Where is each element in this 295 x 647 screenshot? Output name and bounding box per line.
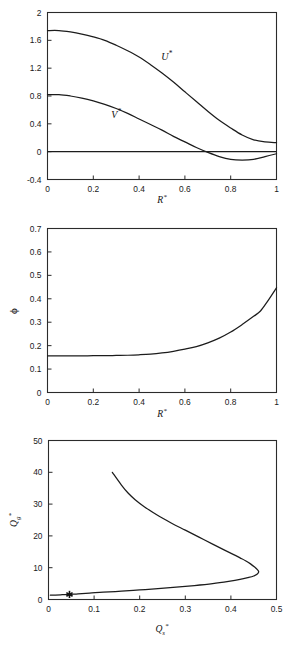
curve-label-Vstar: V* <box>111 108 121 120</box>
curve-U* <box>48 30 277 142</box>
plot-frame-2 <box>48 229 277 393</box>
curve-labels-1: U*V* <box>111 50 172 119</box>
velocity-profiles-svg: 00.20.40.60.81-0.400.40.81.21.62 R* U*V* <box>0 0 295 215</box>
curve-phi <box>48 288 277 356</box>
x-tick-label: 0.4 <box>133 397 145 407</box>
y-tick-label: -0.4 <box>27 175 42 185</box>
y-tick-label: 0 <box>38 595 43 605</box>
y-tick-label: 10 <box>33 563 43 573</box>
y-tick-label: 40 <box>33 467 43 477</box>
data-curves-3 <box>50 472 258 595</box>
y-tick-label: 0.7 <box>30 224 42 234</box>
chart-voidage-profile: 00.20.40.60.8100.10.20.30.40.50.60.7 ϕ R… <box>0 215 295 427</box>
y-tick-label: 0.4 <box>30 119 42 129</box>
x-tick-label: 0.4 <box>133 184 145 194</box>
y-tick-label: 0.3 <box>30 317 42 327</box>
y-tick-label: 0.8 <box>30 91 42 101</box>
curve-operating-curve <box>50 472 258 595</box>
y-axis-title-2: ϕ <box>7 308 19 314</box>
y-tick-label: 1.6 <box>30 35 42 45</box>
axis-ticks-1 <box>48 13 277 180</box>
x-tick-label: 1 <box>274 184 279 194</box>
y-tick-label: 0.6 <box>30 247 42 257</box>
x-tick-label: 0.6 <box>179 397 191 407</box>
axis-tick-labels-1: 00.20.40.60.81-0.400.40.81.21.62 <box>27 8 279 194</box>
x-tick-label: 0.8 <box>225 397 237 407</box>
y-axis-title-3: Qg* <box>7 513 21 527</box>
y-tick-label: 30 <box>33 499 43 509</box>
y-tick-label: 50 <box>33 436 43 446</box>
y-tick-label: 0 <box>37 147 42 157</box>
x-tick-label: 0 <box>45 397 50 407</box>
axis-ticks-2 <box>48 229 277 393</box>
axis-tick-labels-3: 00.10.20.30.40.501020304050 <box>33 436 282 614</box>
chart-gas-solids-flux: 00.10.20.30.40.501020304050 Qg* Qs* <box>0 427 295 647</box>
x-tick-label: 0.2 <box>87 184 99 194</box>
y-tick-label: 0 <box>37 388 42 398</box>
x-tick-label: 0.8 <box>225 184 237 194</box>
curve-label-Ustar: U* <box>161 50 172 62</box>
x-tick-label: 0.1 <box>88 604 100 614</box>
plot-frame-3 <box>49 441 277 600</box>
y-tick-label: 2 <box>37 8 42 18</box>
x-tick-label: 0.2 <box>134 604 146 614</box>
x-axis-title-3: Qs* <box>155 622 169 636</box>
voidage-profile-svg: 00.20.40.60.8100.10.20.30.40.50.60.7 ϕ R… <box>0 215 295 427</box>
gas-solids-flux-svg: 00.10.20.30.40.501020304050 Qg* Qs* <box>0 427 295 647</box>
axis-ticks-3 <box>49 441 277 600</box>
plot-frame-1 <box>48 13 277 180</box>
chart-velocity-profiles: 00.20.40.60.81-0.400.40.81.21.62 R* U*V* <box>0 0 295 215</box>
x-axis-title-2: R* <box>156 407 167 419</box>
y-tick-label: 0.2 <box>30 341 42 351</box>
x-tick-label: 0.5 <box>271 604 283 614</box>
x-tick-label: 0.3 <box>179 604 191 614</box>
y-tick-label: 0.4 <box>30 294 42 304</box>
y-tick-label: 20 <box>33 531 43 541</box>
y-tick-label: 0.5 <box>30 270 42 280</box>
x-tick-label: 0.4 <box>225 604 237 614</box>
x-tick-label: 0 <box>45 184 50 194</box>
figure-page: 00.20.40.60.81-0.400.40.81.21.62 R* U*V*… <box>0 0 295 647</box>
x-tick-label: 0.6 <box>179 184 191 194</box>
data-curves-2 <box>48 288 277 356</box>
curve-V* <box>48 95 277 161</box>
axis-tick-labels-2: 00.20.40.60.8100.10.20.30.40.50.60.7 <box>30 224 279 407</box>
x-tick-label: 1 <box>274 397 279 407</box>
y-tick-label: 0.1 <box>30 364 42 374</box>
x-axis-title-1: R* <box>156 193 167 205</box>
x-tick-label: 0.2 <box>87 397 99 407</box>
y-tick-label: 1.2 <box>30 63 42 73</box>
x-tick-label: 0 <box>46 604 51 614</box>
